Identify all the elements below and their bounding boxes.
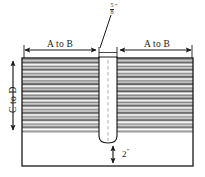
label-width-left: A to B <box>47 40 73 50</box>
label-height-left: C to D <box>9 78 19 122</box>
technical-diagram: A to B A to B C to D 58″ 2″ <box>0 0 205 177</box>
slot <box>99 57 117 143</box>
label-width-right: A to B <box>144 40 170 50</box>
diagram-canvas <box>0 0 205 177</box>
dimension-slot-width <box>99 47 117 58</box>
slot-width-unit: ″ <box>115 3 118 10</box>
label-bottom-gap: 2″ <box>122 148 130 159</box>
caption-partial <box>4 170 194 176</box>
slot-width-leader <box>100 15 111 48</box>
slot-width-fraction: 58 <box>110 3 114 15</box>
label-slot-width: 58″ <box>110 3 118 15</box>
slot-width-denominator: 8 <box>110 10 114 16</box>
bottom-gap-unit: ″ <box>127 147 130 154</box>
